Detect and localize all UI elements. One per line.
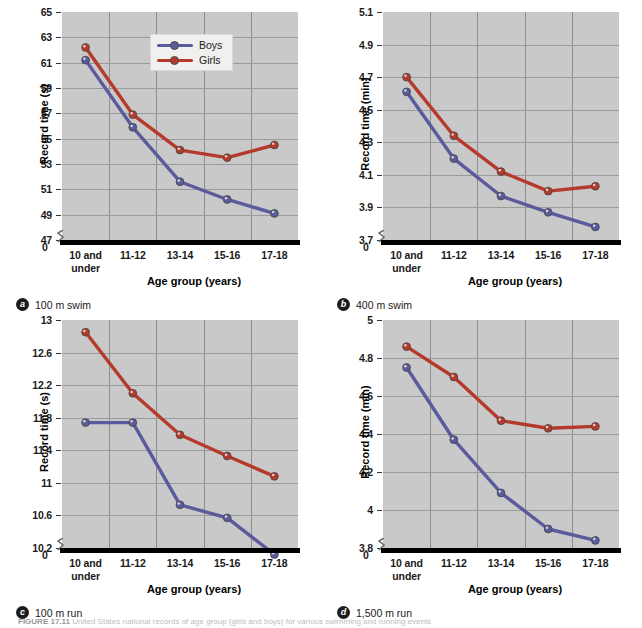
y-tick-mark: [377, 358, 382, 359]
x-tick-label: 10 and: [69, 249, 102, 261]
x-tick-label: 17-18: [261, 249, 287, 261]
data-point-boys: [544, 208, 552, 216]
data-point-girls: [403, 73, 411, 81]
panel-d: 54.84.64.44.243.80Record time (min)10 an…: [321, 308, 642, 618]
y-axis-zero-label: 0: [363, 241, 369, 253]
y-tick-mark: [377, 472, 382, 473]
y-tick-mark: [377, 320, 382, 321]
panel-b: 5.14.94.74.54.34.13.93.70Record time (mi…: [321, 0, 642, 310]
x-tick-label: 13-14: [488, 557, 514, 569]
x-tick-label: 11-12: [120, 249, 146, 261]
y-tick-mark: [56, 483, 61, 484]
data-point-boys: [82, 56, 90, 64]
y-tick-mark: [56, 320, 61, 321]
data-point-boys: [592, 537, 600, 545]
y-tick-mark: [56, 215, 61, 216]
x-axis-title: Age group (years): [468, 275, 562, 287]
x-tick-label: 15-16: [535, 249, 561, 261]
data-point-girls: [544, 424, 552, 432]
x-tick-label: under: [392, 262, 421, 274]
x-tick-label: 11-12: [441, 249, 467, 261]
x-tick-label: 13-14: [488, 249, 514, 261]
x-tick-label: 15-16: [535, 557, 561, 569]
y-tick-mark: [56, 12, 61, 13]
y-tick-mark: [56, 139, 61, 140]
legend-swatch-boys-icon: [157, 41, 193, 50]
x-tick-label: 10 and: [390, 249, 423, 261]
data-point-boys: [403, 88, 411, 96]
y-tick-mark: [56, 63, 61, 64]
y-tick-label: 5: [367, 314, 373, 326]
y-tick-mark: [377, 396, 382, 397]
y-tick-mark: [56, 385, 61, 386]
data-point-girls: [223, 154, 231, 162]
plot-area-c: 1312.612.211.811.41110.610.20Record time…: [62, 320, 298, 548]
x-axis-bar: [60, 548, 300, 553]
y-tick-mark: [56, 450, 61, 451]
y-tick-mark: [377, 142, 382, 143]
series-line-boys: [86, 423, 275, 555]
data-point-girls: [592, 182, 600, 190]
x-tick-label: 11-12: [120, 557, 146, 569]
x-tick-label: 17-18: [582, 557, 608, 569]
x-tick-label: 13-14: [167, 557, 193, 569]
legend-swatch-girls-icon: [157, 56, 193, 65]
x-axis-title: Age group (years): [468, 583, 562, 595]
data-point-girls: [497, 417, 505, 425]
y-axis-title: Record time (min): [359, 332, 371, 532]
data-point-boys: [497, 192, 505, 200]
legend-item-boys[interactable]: Boys: [157, 39, 222, 51]
y-axis-title: Record time (s): [38, 332, 50, 532]
legend-label: Girls: [199, 54, 221, 66]
x-tick-label: 13-14: [167, 249, 193, 261]
panel-c: 1312.612.211.811.41110.610.20Record time…: [0, 308, 321, 618]
panel-a: BoysGirls656361595755535149470Record tim…: [0, 0, 321, 310]
x-tick-label: under: [71, 570, 100, 582]
data-point-girls: [450, 132, 458, 140]
x-tick-label: 17-18: [582, 249, 608, 261]
y-tick-label: 65: [41, 6, 52, 18]
y-tick-mark: [56, 189, 61, 190]
data-point-boys: [497, 489, 505, 497]
x-tick-label: 10 and: [69, 557, 102, 569]
data-point-boys: [129, 123, 137, 131]
figure-caption-label: FIGURE 17.11: [18, 617, 70, 626]
plot-background-b: [383, 12, 619, 240]
data-point-boys: [450, 155, 458, 163]
y-tick-mark: [56, 88, 61, 89]
x-tick-label: under: [392, 570, 421, 582]
x-axis-bar: [381, 548, 621, 553]
data-point-boys: [223, 196, 231, 204]
x-tick-label: under: [71, 262, 100, 274]
x-axis-title: Age group (years): [147, 583, 241, 595]
data-point-girls: [129, 111, 137, 119]
y-axis-zero-label: 0: [363, 549, 369, 561]
data-point-boys: [176, 178, 184, 186]
y-tick-mark: [56, 353, 61, 354]
series-line-girls: [86, 332, 275, 476]
series-line-boys: [407, 368, 596, 541]
y-tick-mark: [56, 418, 61, 419]
legend-label: Boys: [199, 39, 222, 51]
plot-area-d: 54.84.64.44.243.80Record time (min)10 an…: [383, 320, 619, 548]
series-layer-c: [62, 320, 298, 548]
y-tick-label: 13: [41, 314, 52, 326]
data-point-girls: [176, 431, 184, 439]
legend-item-girls[interactable]: Girls: [157, 54, 222, 66]
figure-container: BoysGirls656361595755535149470Record tim…: [0, 0, 642, 628]
data-point-boys: [592, 223, 600, 231]
figure-caption: FIGURE 17.11 United States national reco…: [18, 617, 633, 626]
y-tick-mark: [377, 434, 382, 435]
data-point-girls: [271, 141, 279, 149]
data-point-girls: [592, 423, 600, 431]
series-layer-d: [383, 320, 619, 548]
data-point-girls: [450, 373, 458, 381]
y-axis-title: Record time (min): [359, 24, 371, 224]
x-tick-label: 17-18: [261, 557, 287, 569]
x-tick-label: 15-16: [214, 557, 240, 569]
y-tick-mark: [56, 515, 61, 516]
data-point-boys: [176, 501, 184, 509]
plot-background-a: BoysGirls: [62, 12, 298, 240]
data-point-girls: [82, 44, 90, 52]
y-tick-mark: [377, 110, 382, 111]
